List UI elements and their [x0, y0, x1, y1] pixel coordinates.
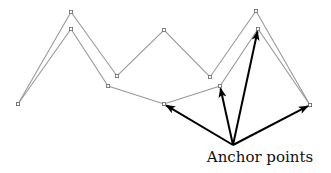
anchor-points-label: Anchor points [206, 148, 313, 166]
anchor-point-marker [69, 27, 72, 30]
anchor-point-marker [162, 28, 165, 31]
anchor-point-marker [308, 103, 311, 106]
anchor-point-marker [208, 75, 211, 78]
polyline-segment [18, 11, 310, 105]
anchor-point-marker [254, 9, 257, 12]
anchor-point-marker [162, 102, 165, 105]
anchor-point-marker [115, 74, 118, 77]
arrow [221, 88, 233, 145]
anchor-point-marker [256, 27, 259, 30]
anchor-point-marker [106, 84, 109, 87]
anchor-points-diagram: Anchor points [0, 0, 331, 173]
lower-polyline [16, 27, 311, 106]
polyline-segment [18, 29, 310, 105]
anchor-point-marker [218, 84, 221, 87]
arrow [233, 106, 308, 145]
arrow [166, 105, 233, 145]
upper-polyline [16, 9, 311, 106]
anchor-point-marker [16, 102, 19, 105]
anchor-arrows [166, 31, 308, 145]
anchor-point-marker [69, 10, 72, 13]
